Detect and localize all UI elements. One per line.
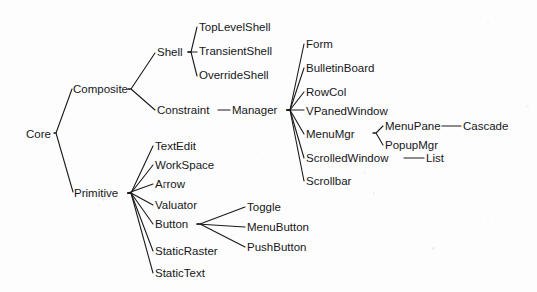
node-pushbutton: PushButton xyxy=(247,241,306,254)
node-core: Core xyxy=(26,128,51,141)
class-hierarchy-diagram: CoreCompositePrimitiveShellConstraintTop… xyxy=(0,0,537,292)
node-statictext: StaticText xyxy=(155,267,205,280)
node-button: Button xyxy=(155,218,188,231)
node-transientshell: TransientShell xyxy=(199,45,272,58)
node-shell: Shell xyxy=(157,46,183,59)
node-menumgr: MenuMgr xyxy=(306,128,355,141)
node-form: Form xyxy=(306,38,333,51)
node-vpanedwindow: VPanedWindow xyxy=(306,105,388,118)
node-scrollbar: Scrollbar xyxy=(306,175,351,188)
node-popupmgr: PopupMgr xyxy=(385,139,438,152)
node-menubutton: MenuButton xyxy=(247,221,309,234)
node-overrideshell: OverrideShell xyxy=(199,69,269,82)
node-toggle: Toggle xyxy=(247,201,281,214)
node-scrolledwindow: ScrolledWindow xyxy=(306,152,388,165)
node-arrow: Arrow xyxy=(155,178,185,191)
node-constraint: Constraint xyxy=(157,104,209,117)
node-textedit: TextEdit xyxy=(155,140,196,153)
node-label-layer: CoreCompositePrimitiveShellConstraintTop… xyxy=(0,0,537,292)
node-rowcol: RowCol xyxy=(306,86,346,99)
node-workspace: WorkSpace xyxy=(155,159,214,172)
node-toplevelshell: TopLevelShell xyxy=(199,21,271,34)
node-bulletinboard: BulletinBoard xyxy=(306,62,374,75)
node-menupane: MenuPane xyxy=(385,120,441,133)
node-list: List xyxy=(426,152,444,165)
node-cascade: Cascade xyxy=(463,120,508,133)
node-manager: Manager xyxy=(232,104,277,117)
node-staticraster: StaticRaster xyxy=(155,245,218,258)
node-primitive: Primitive xyxy=(74,187,118,200)
node-valuator: Valuator xyxy=(155,199,197,212)
node-composite: Composite xyxy=(73,83,128,96)
